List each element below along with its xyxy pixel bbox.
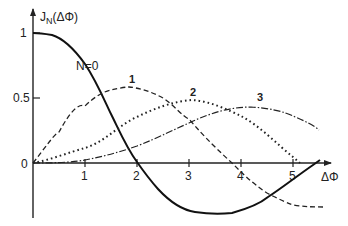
bessel-chart: 1 0.5 0 1 2 3 4 5 JN(ΔΦ) ΔΦ N=0 1 2 3 bbox=[0, 0, 348, 226]
y-tick-label-1: 1 bbox=[20, 26, 27, 40]
series-n2-line bbox=[33, 100, 300, 163]
series-n0-label: N=0 bbox=[76, 59, 99, 73]
x-tick-label-4: 4 bbox=[237, 169, 244, 183]
x-tick-label-3: 3 bbox=[185, 169, 192, 183]
y-ticks bbox=[33, 33, 40, 98]
series-n2-label: 2 bbox=[190, 86, 196, 98]
x-axis-label: ΔΦ bbox=[321, 170, 339, 184]
series-n3-line bbox=[33, 107, 319, 163]
series-n3-label: 3 bbox=[257, 91, 263, 103]
y-tick-label-0.5: 0.5 bbox=[13, 91, 30, 105]
x-tick-label-1: 1 bbox=[81, 169, 88, 183]
y-axis-label: JN(ΔΦ) bbox=[40, 10, 78, 26]
series-n1-label: 1 bbox=[129, 73, 135, 85]
y-tick-label-0: 0 bbox=[21, 157, 28, 171]
x-tick-label-2: 2 bbox=[133, 169, 140, 183]
